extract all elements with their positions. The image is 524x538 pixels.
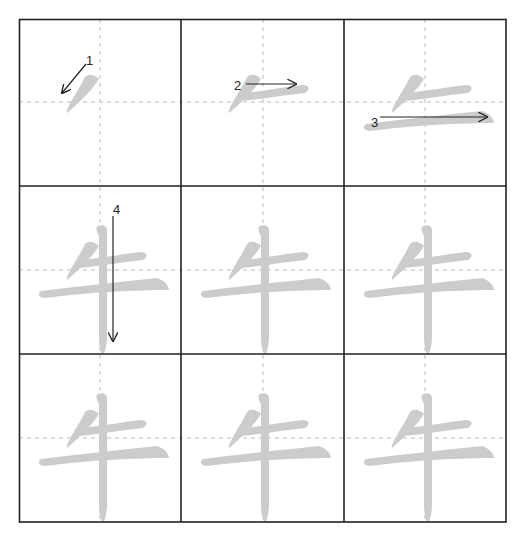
stroke-arrows xyxy=(62,64,487,341)
stroke-3 xyxy=(364,111,494,131)
stroke-number-4: 4 xyxy=(113,202,120,217)
stroke-numbers: 1 2 3 4 xyxy=(86,53,378,217)
cell-7 xyxy=(39,393,169,522)
stroke-order-worksheet: 1 2 3 4 xyxy=(0,0,524,538)
cell-6 xyxy=(364,225,494,354)
cell-9 xyxy=(364,393,494,522)
stroke-number-1: 1 xyxy=(86,53,93,68)
cell-5 xyxy=(201,225,331,354)
cell-8 xyxy=(201,393,331,522)
cell-3 xyxy=(364,75,494,131)
cell-4 xyxy=(39,225,169,354)
stroke-number-2: 2 xyxy=(234,78,241,93)
stroke-number-3: 3 xyxy=(371,115,378,130)
